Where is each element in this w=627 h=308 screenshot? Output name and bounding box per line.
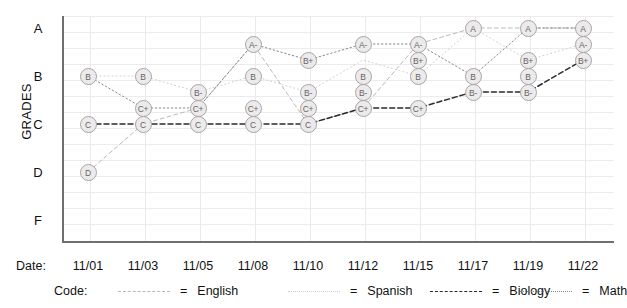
legend-equals: = — [582, 284, 589, 298]
grade-point[interactable]: B- — [300, 84, 317, 101]
legend-label-english: English — [197, 284, 238, 298]
grade-point[interactable]: A- — [355, 36, 372, 53]
y-tick-A: A — [26, 21, 50, 36]
grade-point[interactable]: C — [80, 116, 97, 133]
legend-equals: = — [180, 284, 187, 298]
grade-point[interactable]: B — [245, 68, 262, 85]
legend-equals: = — [492, 284, 499, 298]
grade-point[interactable]: C — [135, 116, 152, 133]
legend-equals: = — [350, 284, 357, 298]
x-tick-11-01: 11/01 — [58, 259, 118, 273]
y-axis-title: GRADES — [19, 42, 34, 182]
grade-point[interactable]: A- — [410, 36, 427, 53]
legend-code-label: Code: — [54, 284, 87, 298]
grade-point[interactable]: A- — [245, 36, 262, 53]
y-tick-C: C — [26, 117, 50, 132]
legend-item-spanish[interactable]: =Spanish — [288, 284, 413, 298]
grade-point[interactable]: B- — [520, 84, 537, 101]
grade-point[interactable]: C — [245, 116, 262, 133]
grade-point[interactable]: A — [465, 20, 482, 37]
grade-point[interactable]: B+ — [410, 52, 427, 69]
x-tick-11-19: 11/19 — [498, 259, 558, 273]
x-tick-11-17: 11/17 — [443, 259, 503, 273]
legend-swatch-biology — [430, 291, 482, 292]
x-tick-11-15: 11/15 — [388, 259, 448, 273]
y-tick-B: B — [26, 69, 50, 84]
gridline-horizontal — [64, 208, 614, 209]
grade-point[interactable]: C+ — [190, 100, 207, 117]
gridline-horizontal — [64, 160, 614, 161]
x-tick-11-05: 11/05 — [168, 259, 228, 273]
grade-point[interactable]: C+ — [355, 100, 372, 117]
date-axis-label: Date: — [16, 259, 46, 273]
grade-point[interactable]: C+ — [245, 100, 262, 117]
grade-point[interactable]: C+ — [300, 100, 317, 117]
grade-point[interactable]: B+ — [300, 52, 317, 69]
legend-item-english[interactable]: =English — [118, 284, 238, 298]
gridline-horizontal — [64, 192, 614, 193]
legend-swatch-spanish — [288, 291, 340, 292]
grade-point[interactable]: C — [190, 116, 207, 133]
legend-item-math[interactable]: =Math — [520, 284, 627, 298]
x-tick-11-12: 11/12 — [333, 259, 393, 273]
grade-point[interactable]: B+ — [520, 52, 537, 69]
gridline-horizontal — [64, 16, 614, 17]
grade-point[interactable]: B — [520, 68, 537, 85]
x-tick-11-10: 11/10 — [278, 259, 338, 273]
x-tick-11-03: 11/03 — [113, 259, 173, 273]
grade-point[interactable]: C+ — [410, 100, 427, 117]
gridline-horizontal — [64, 144, 614, 145]
x-tick-11-22: 11/22 — [553, 259, 613, 273]
gridline-horizontal — [64, 48, 614, 49]
grade-point[interactable]: B — [135, 68, 152, 85]
legend-label-math: Math — [599, 284, 627, 298]
grade-point[interactable]: B- — [465, 84, 482, 101]
grade-point[interactable]: B — [355, 68, 372, 85]
grade-point[interactable]: D — [80, 164, 97, 181]
gridline-horizontal — [64, 224, 614, 225]
grade-point[interactable]: B — [465, 68, 482, 85]
grade-point[interactable]: C — [300, 116, 317, 133]
grade-point[interactable]: A — [520, 20, 537, 37]
grade-point[interactable]: B- — [190, 84, 207, 101]
legend-swatch-english — [118, 291, 170, 292]
grade-point[interactable]: B — [80, 68, 97, 85]
grade-point[interactable]: C+ — [135, 100, 152, 117]
grade-point[interactable]: B — [410, 68, 427, 85]
grade-point[interactable]: B- — [355, 84, 372, 101]
y-tick-D: D — [26, 165, 50, 180]
legend: Code: =English=Spanish=Biology=Math — [0, 284, 624, 304]
grade-point[interactable]: A- — [575, 36, 592, 53]
grade-point[interactable]: A — [575, 20, 592, 37]
gridline-horizontal — [64, 176, 614, 177]
y-tick-F: F — [26, 213, 50, 228]
legend-label-spanish: Spanish — [367, 284, 412, 298]
legend-swatch-math — [520, 291, 572, 292]
grade-point[interactable]: B+ — [575, 52, 592, 69]
x-tick-11-08: 11/08 — [223, 259, 283, 273]
